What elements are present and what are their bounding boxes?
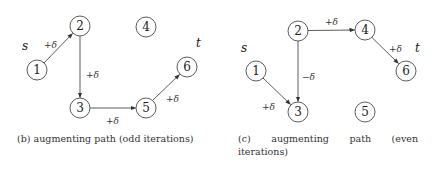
svg-text:6: 6 (183, 60, 191, 74)
panel-c-graph: s t +δ −δ +δ +δ 1 2 3 4 5 6 (241, 17, 420, 122)
edge-label: +δ (166, 94, 179, 104)
caption-c: (c) augmenting path (even iterations) (238, 132, 418, 158)
svg-text:2: 2 (76, 19, 84, 33)
edge-label: +δ (389, 44, 402, 54)
source-label: s (22, 39, 28, 53)
caption-b: (b) augmenting path (odd iterations) (17, 132, 197, 145)
edge-label: +δ (86, 70, 99, 80)
node-2: 2 (70, 16, 90, 36)
svg-text:1: 1 (33, 63, 41, 77)
svg-text:6: 6 (402, 64, 410, 78)
node-6: 6 (177, 57, 197, 77)
node-5: 5 (136, 98, 156, 118)
svg-text:3: 3 (294, 105, 302, 119)
node-3: 3 (70, 98, 90, 118)
svg-text:3: 3 (76, 101, 84, 115)
svg-text:4: 4 (361, 23, 369, 37)
node-4: 4 (355, 20, 375, 40)
edge-2-3: +δ (80, 36, 99, 98)
edge-2-3: −δ (298, 41, 315, 102)
edge-label: +δ (106, 116, 119, 126)
edge-2-4: +δ (308, 17, 355, 31)
svg-text:1: 1 (252, 64, 260, 78)
edge-5-6: +δ (153, 75, 180, 105)
source-label: s (241, 41, 247, 55)
sink-label: t (196, 36, 201, 50)
node-1: 1 (27, 60, 47, 80)
edge-label: +δ (262, 102, 275, 112)
edge-label: +δ (44, 40, 57, 50)
svg-text:2: 2 (294, 24, 302, 38)
node-6: 6 (396, 61, 416, 81)
node-1: 1 (246, 61, 266, 81)
sink-label: t (415, 41, 420, 55)
edge-1-3: +δ (262, 78, 291, 112)
edge-label: −δ (302, 72, 315, 82)
node-5: 5 (355, 102, 375, 122)
svg-text:4: 4 (142, 20, 150, 34)
edge-label: +δ (325, 17, 338, 27)
svg-text:5: 5 (142, 101, 150, 115)
node-4: 4 (136, 17, 156, 37)
node-3: 3 (288, 102, 308, 122)
svg-text:5: 5 (361, 105, 369, 119)
edge-3-5: +δ (90, 108, 136, 126)
edge-4-6: +δ (372, 38, 402, 64)
node-2: 2 (288, 21, 308, 41)
edge-1-2: +δ (44, 34, 73, 64)
panel-b-graph: s t +δ +δ +δ +δ 1 2 3 4 5 6 (22, 16, 201, 126)
